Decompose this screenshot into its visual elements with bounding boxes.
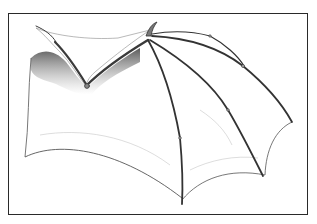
wing-illustration [0, 0, 317, 224]
finger-bones [148, 32, 292, 204]
membrane-creases [40, 110, 258, 170]
